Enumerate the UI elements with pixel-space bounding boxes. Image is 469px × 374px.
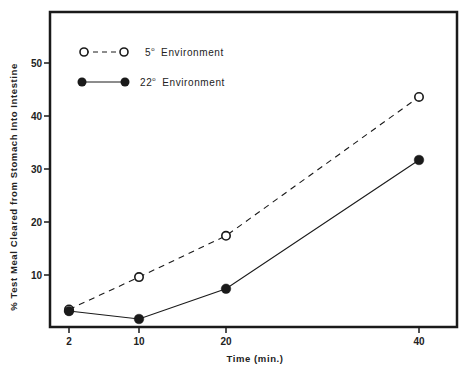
data-point-5deg-t40 xyxy=(415,93,423,101)
legend: 5oEnvironment 22oEnvironment xyxy=(78,46,226,88)
data-point-5deg-t20 xyxy=(222,232,230,240)
data-point-22deg-t40 xyxy=(414,155,424,165)
x-axis-title: Time (min.) xyxy=(226,353,283,364)
legend-label-22deg: 22oEnvironment xyxy=(140,76,225,88)
data-point-22deg-t2-overlay xyxy=(64,306,74,316)
series-line-22deg xyxy=(69,160,419,319)
data-point-22deg-t20 xyxy=(221,284,231,294)
legend-marker-5deg-right xyxy=(120,48,128,56)
y-tick-label-10: 10 xyxy=(31,270,43,281)
y-tick-label-20: 20 xyxy=(31,217,43,228)
legend-label-5deg: 5oEnvironment xyxy=(145,46,224,58)
legend-marker-5deg-left xyxy=(80,48,88,56)
x-tick-label-10: 10 xyxy=(133,336,145,347)
x-axis-ticks: 2102040 xyxy=(66,327,425,347)
legend-marker-22deg-left xyxy=(78,78,87,87)
y-tick-label-40: 40 xyxy=(31,111,43,122)
y-axis-title: % Test Meal Cleared from Stomach Into In… xyxy=(8,63,19,311)
plot-frame xyxy=(50,12,457,327)
data-point-5deg-t10 xyxy=(135,273,143,281)
data-point-22deg-t10 xyxy=(134,314,144,324)
legend-marker-22deg-right xyxy=(121,78,130,87)
y-axis-ticks: 1020304050 xyxy=(31,58,50,281)
x-tick-label-20: 20 xyxy=(220,336,232,347)
y-tick-label-50: 50 xyxy=(31,58,43,69)
series-line-5deg xyxy=(69,97,419,310)
x-tick-label-2: 2 xyxy=(66,336,72,347)
y-tick-label-30: 30 xyxy=(31,164,43,175)
x-tick-label-40: 40 xyxy=(413,336,425,347)
chart: 1020304050 2102040 5oEnvironment 22oEnvi… xyxy=(0,0,469,374)
series-layer xyxy=(64,93,424,324)
